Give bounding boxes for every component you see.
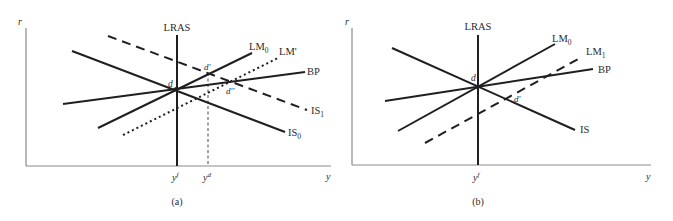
panel-b: r y LRAS IS LM0 LM1 BP d d' yf (b): [345, 16, 651, 208]
panel-b-x-axis-label: y: [645, 171, 651, 182]
panel-a-bp-curve: [63, 72, 305, 104]
panel-b-point-d-label: d: [471, 73, 476, 83]
panel-a-is0-label: IS0: [288, 127, 301, 141]
panel-b-lras-label: LRAS: [465, 21, 492, 32]
panel-a-is1-label: IS1: [311, 105, 324, 119]
panel-a-lras-label: LRAS: [164, 22, 191, 33]
panel-b-lm1-curve: [425, 57, 582, 143]
panel-a-yd-tick-label: yd: [202, 171, 211, 183]
panel-b-point-d: [475, 85, 479, 89]
panel-a-y-axis-label: r: [18, 16, 22, 27]
panel-a-point-d-double-prime-label: d'': [226, 86, 235, 96]
panel-a-point-d-prime-label: d': [204, 62, 212, 72]
panel-b-y-axis-label: r: [345, 16, 349, 27]
is-lm-bp-diagram: r y LRAS IS1 IS0 LM0 LM' BP d d' d'' yf …: [0, 0, 673, 221]
panel-a-is1-curve: [108, 36, 307, 110]
panel-b-is-label: IS: [580, 124, 589, 135]
panel-a-yf-tick-label: yf: [171, 171, 179, 183]
panel-a-lm0-label: LM0: [249, 41, 269, 55]
panel-b-caption: (b): [472, 196, 484, 208]
panel-a-bp-label: BP: [307, 66, 320, 77]
panel-b-yf-tick-label: yf: [472, 171, 480, 183]
panel-a-x-axis-label: y: [325, 171, 331, 182]
panel-b-bp-label: BP: [598, 64, 611, 75]
panel-b-lm1-label: LM1: [586, 46, 606, 60]
panel-b-bp-curve: [385, 69, 593, 101]
panel-a-point-d-label: d: [168, 79, 173, 89]
panel-a-lm-prime-label: LM': [279, 46, 297, 57]
panel-a: r y LRAS IS1 IS0 LM0 LM' BP d d' d'' yf …: [18, 16, 331, 208]
panel-a-caption: (a): [171, 196, 182, 208]
panel-a-point-d: [174, 87, 178, 91]
panel-b-point-d-prime-label: d': [514, 94, 522, 104]
panel-b-is-curve: [392, 48, 575, 130]
